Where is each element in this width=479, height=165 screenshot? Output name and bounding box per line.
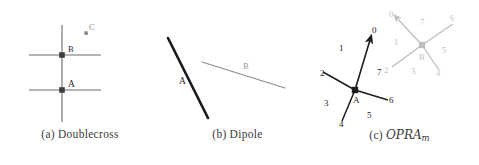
caption-dipole: (b)Dipole bbox=[155, 128, 320, 140]
node-label-c: C bbox=[89, 22, 95, 32]
agent-a-axes bbox=[323, 40, 388, 121]
agent-b-orientation-arrow bbox=[397, 18, 422, 45]
agent-a-ray-6 bbox=[355, 90, 388, 100]
node-b-marker bbox=[59, 52, 65, 58]
dipole-label-a: A bbox=[179, 76, 186, 86]
sector-label-b-6: 6 bbox=[450, 13, 454, 23]
agent-a-node-label: A bbox=[353, 95, 360, 105]
sector-label-b-2: 2 bbox=[384, 65, 388, 75]
sector-label-b-4: 4 bbox=[436, 68, 441, 78]
doublecross-svg: B A C bbox=[0, 0, 160, 128]
sector-label-b-1: 1 bbox=[394, 37, 398, 47]
sector-label-a-1: 1 bbox=[339, 43, 344, 53]
agent-b-ray-6 bbox=[422, 24, 453, 45]
caption-opram: (c)OPRAm bbox=[320, 128, 479, 143]
caption-label-c: (c) bbox=[369, 129, 383, 141]
sector-label-a-7: 7 bbox=[377, 67, 382, 77]
node-label-a: A bbox=[68, 79, 75, 89]
sector-label-a-0: 0 bbox=[372, 25, 377, 35]
sector-label-b-5: 5 bbox=[442, 45, 446, 55]
sector-label-a-5: 5 bbox=[367, 110, 372, 120]
dipole-label-b: B bbox=[243, 61, 249, 71]
agent-a-orientation-arrow bbox=[355, 40, 370, 90]
dipole-segment-a bbox=[168, 38, 208, 118]
sector-label-a-6: 6 bbox=[389, 95, 394, 105]
sector-label-a-4: 4 bbox=[339, 119, 344, 128]
sector-label-b-0: 0 bbox=[389, 9, 393, 19]
figure-container: B A C (a)Doublecross A B (b)Dipole bbox=[0, 0, 479, 165]
panel-doublecross: B A C (a)Doublecross bbox=[0, 0, 160, 165]
node-c-marker bbox=[84, 31, 88, 35]
agent-b-node-label: B bbox=[419, 52, 425, 62]
agent-a-node-marker bbox=[352, 87, 358, 93]
panel-opram: A B 0 1 2 3 4 5 6 7 bbox=[320, 0, 479, 165]
caption-label-b: (b) bbox=[212, 128, 226, 140]
sector-label-a-3: 3 bbox=[324, 98, 329, 108]
panel-dipole: A B (b)Dipole bbox=[155, 0, 320, 165]
caption-subscript-c: m bbox=[422, 133, 430, 143]
caption-text-b: Dipole bbox=[230, 128, 263, 140]
caption-label-a: (a) bbox=[41, 128, 55, 140]
caption-text-c: OPRA bbox=[386, 128, 422, 142]
agent-b-ray-2 bbox=[392, 45, 422, 67]
caption-doublecross: (a)Doublecross bbox=[0, 128, 160, 140]
node-label-b: B bbox=[68, 44, 74, 54]
node-a-marker bbox=[59, 87, 65, 93]
sector-label-a-2: 2 bbox=[320, 68, 325, 78]
agent-a-ray-2 bbox=[323, 72, 355, 90]
sector-label-b-3: 3 bbox=[411, 66, 415, 76]
dipole-svg: A B bbox=[155, 0, 320, 128]
agent-b-node-marker bbox=[419, 42, 425, 48]
caption-text-a: Doublecross bbox=[58, 128, 119, 140]
opram-svg: A B 0 1 2 3 4 5 6 7 bbox=[320, 0, 479, 128]
sector-label-b-7: 7 bbox=[420, 17, 424, 27]
